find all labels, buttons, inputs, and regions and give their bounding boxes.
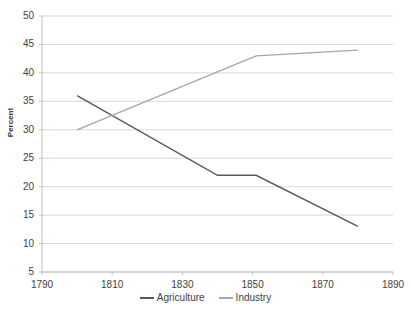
x-tick-label: 1790: [20, 280, 64, 290]
legend-item-industry: Industry: [219, 293, 272, 303]
chart-legend: Agriculture Industry: [0, 293, 411, 303]
line-chart: Percent 5101520253035404550 179018101830…: [0, 0, 411, 313]
y-tick-label: 40: [6, 68, 34, 78]
plot-area: [0, 0, 411, 313]
x-tick-label: 1890: [371, 280, 411, 290]
legend-label-industry: Industry: [236, 293, 272, 303]
x-tick-label: 1830: [160, 280, 204, 290]
legend-item-agriculture: Agriculture: [140, 293, 205, 303]
y-tick-label: 50: [6, 11, 34, 21]
x-tick-label: 1870: [301, 280, 345, 290]
series-line-agriculture: [77, 96, 358, 227]
y-tick-label: 15: [6, 210, 34, 220]
legend-swatch-industry: [219, 297, 233, 299]
legend-swatch-agriculture: [140, 297, 154, 299]
y-tick-label: 20: [6, 182, 34, 192]
y-tick-label: 35: [6, 96, 34, 106]
series-line-industry: [77, 50, 358, 130]
x-tick-label: 1810: [90, 280, 134, 290]
y-tick-label: 10: [6, 239, 34, 249]
y-tick-label: 5: [6, 267, 34, 277]
x-tick-label: 1850: [231, 280, 275, 290]
y-tick-label: 45: [6, 39, 34, 49]
y-tick-label: 25: [6, 153, 34, 163]
legend-label-agriculture: Agriculture: [157, 293, 205, 303]
y-tick-label: 30: [6, 125, 34, 135]
